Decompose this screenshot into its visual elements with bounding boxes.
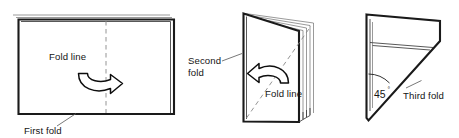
second-fold-label-line2: fold <box>188 67 204 78</box>
third-fold-label: Third fold <box>403 90 444 101</box>
third-fold-leader-line <box>406 81 422 89</box>
sheet-face <box>19 20 175 115</box>
angle-value-label: 45 <box>374 89 386 100</box>
panel-second-fold: Fold line Second fold <box>188 13 320 122</box>
paper-folding-diagram: Fold line First fold <box>0 0 459 138</box>
angle-degree-symbol: ° <box>388 86 391 93</box>
panel-first-fold: Fold line First fold <box>13 15 174 136</box>
pennant-face-fill <box>367 15 441 121</box>
fold-line-label-1: Fold line <box>49 51 86 62</box>
fold-diagram-container: Fold line First fold <box>0 0 459 138</box>
second-fold-label-line1: Second <box>188 55 221 66</box>
second-fold-leader-line <box>222 54 242 62</box>
panel-third-fold: 45 ° Third fold <box>366 14 444 121</box>
first-fold-label: First fold <box>24 125 62 136</box>
fold-line-label-2: Fold line <box>265 88 302 99</box>
